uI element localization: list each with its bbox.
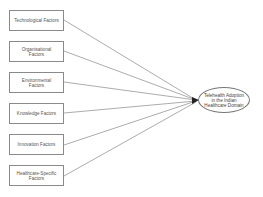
factor-box-innovation: Innovation Factors xyxy=(9,134,64,155)
factor-label: Environmental Factors xyxy=(21,78,53,88)
factor-box-knowledge: Knowledge Factors xyxy=(9,103,64,124)
connector-knowledge xyxy=(64,101,196,113)
factor-label: Technological Factors xyxy=(14,18,58,23)
factor-label: Innovation Factors xyxy=(18,142,56,147)
factor-box-healthcare-specific: Healthcare-Specific Factors xyxy=(9,165,64,186)
connector-organisational xyxy=(64,51,196,100)
factor-label: Organisational Factors xyxy=(21,47,53,57)
factor-label: Healthcare-Specific Factors xyxy=(14,171,60,181)
factor-box-environmental: Environmental Factors xyxy=(9,72,64,93)
outcome-label: Telehealth Adoption in the Indian Health… xyxy=(202,93,246,108)
connector-innovation xyxy=(64,101,196,145)
connector-healthcare xyxy=(64,102,196,176)
factor-box-organisational: Organisational Factors xyxy=(9,41,64,62)
outcome-ellipse: Telehealth Adoption in the Indian Health… xyxy=(198,87,250,113)
factor-label: Knowledge Factors xyxy=(17,111,56,116)
factor-box-technological: Technological Factors xyxy=(9,10,64,31)
connector-environmental xyxy=(64,82,196,100)
connector-technological xyxy=(64,20,196,100)
